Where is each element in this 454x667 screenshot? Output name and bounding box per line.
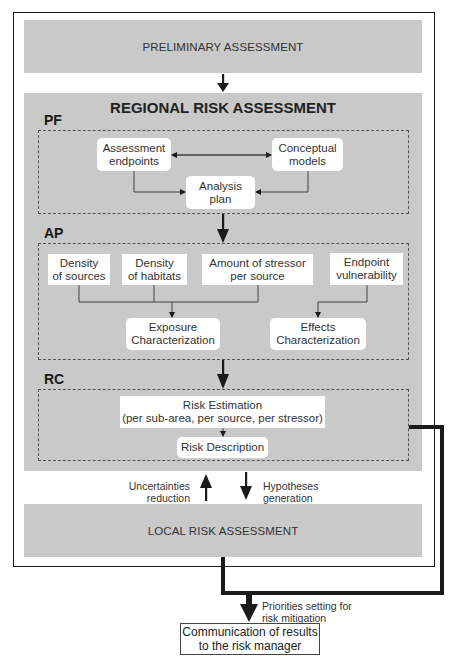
effects-characterization-node: Effects Characterization (270, 318, 366, 350)
assessment-endpoints-node: Assessment endpoints (97, 138, 171, 171)
density-of-habitats-node: Density of habitats (122, 254, 187, 285)
analysis-plan-node: Analysis plan (186, 176, 255, 209)
preliminary-assessment-label: PRELIMINARY ASSESSMENT (143, 41, 304, 53)
exposure-characterization-node: Exposure Characterization (126, 318, 220, 350)
communication-results-box: Communication of results to the risk man… (180, 623, 320, 655)
local-risk-assessment-band: LOCAL RISK ASSESSMENT (24, 504, 422, 557)
preliminary-assessment-band: PRELIMINARY ASSESSMENT (24, 20, 422, 73)
endpoint-vulnerability-node: Endpoint vulnerability (330, 253, 403, 285)
conceptual-models-node: Conceptual models (272, 138, 343, 171)
hypotheses-generation-label: Hypotheses generation (263, 480, 343, 504)
rc-section-label: RC (44, 371, 64, 387)
amount-of-stressor-node: Amount of stressor per source (202, 254, 313, 285)
pf-section-label: PF (44, 112, 62, 128)
uncertainties-reduction-label: Uncertainties reduction (120, 480, 190, 504)
density-of-sources-node: Density of sources (48, 254, 110, 285)
local-risk-assessment-label: LOCAL RISK ASSESSMENT (148, 525, 299, 537)
ap-section-label: AP (44, 225, 63, 241)
risk-description-node: Risk Description (177, 437, 268, 458)
regional-risk-assessment-title: REGIONAL RISK ASSESSMENT (24, 99, 422, 116)
priorities-setting-label: Priorities setting for risk mitigation (262, 600, 382, 624)
risk-estimation-node: Risk Estimation (per sub-area, per sourc… (120, 396, 325, 428)
